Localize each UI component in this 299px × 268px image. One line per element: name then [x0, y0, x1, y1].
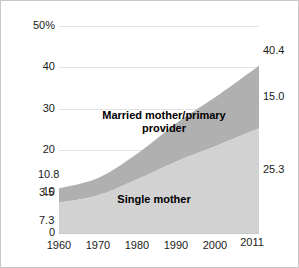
ytick-50-wrap: 50%	[1, 20, 55, 31]
ytick-20-wrap: 20	[1, 144, 55, 155]
ytick-label-20: 20	[3, 144, 55, 155]
value-label-left-total: 10.8	[38, 169, 59, 180]
value-label-right-total: 40.4	[263, 45, 284, 56]
value-label-left-single: 7.3	[39, 215, 54, 226]
xtick-label-1960: 1960	[39, 239, 79, 251]
chart-figure: 50% 40 30 20 10 0 Married mother/primary…	[0, 0, 299, 268]
ytick-0-wrap: 0	[1, 227, 55, 238]
xtick-label-1990: 1990	[156, 239, 196, 251]
ytick-label-0: 0	[3, 227, 55, 238]
ytick-label-40: 40	[3, 61, 55, 72]
xtick-label-1980: 1980	[117, 239, 157, 251]
value-label-right-single: 25.3	[263, 164, 284, 175]
ytick-40-wrap: 40	[1, 61, 55, 72]
value-label-right-married: 15.0	[263, 91, 284, 102]
ytick-label-30: 30	[3, 103, 55, 114]
series-label-married-mother: Married mother/primary provider	[89, 109, 239, 135]
xtick-label-2000: 2000	[195, 239, 235, 251]
series-label-single-mother: Single mother	[99, 193, 209, 206]
ytick-30-wrap: 30	[1, 103, 55, 114]
value-label-left-married: 3.5	[39, 187, 54, 198]
xtick-label-2011: 2011	[232, 236, 272, 248]
xtick-label-1970: 1970	[78, 239, 118, 251]
ytick-label-50: 50%	[3, 20, 55, 31]
axis-line-x	[59, 233, 259, 234]
